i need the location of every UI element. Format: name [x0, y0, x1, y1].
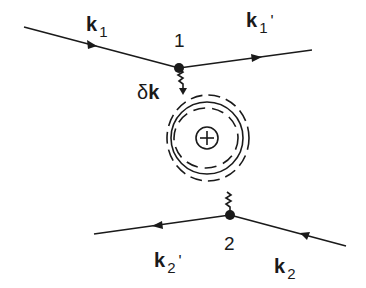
label-k1-prime: k1' [246, 10, 274, 35]
arrow-k2-icon [300, 232, 310, 240]
label-vertex-2: 2 [224, 234, 235, 253]
arrow-k1-prime-icon [251, 54, 262, 62]
label-vertex-1: 1 [174, 31, 185, 50]
arrow-dk-icon [179, 88, 187, 95]
label-delta-k: δk [137, 82, 159, 102]
label-k1: k1 [86, 14, 107, 39]
label-k2-prime: k2' [154, 250, 182, 275]
line-k2 [230, 215, 346, 246]
vertex-1 [174, 63, 184, 73]
vertex-2 [225, 210, 235, 220]
arrow-k1-icon [87, 40, 97, 49]
line-k1-prime [179, 50, 312, 68]
label-k2: k2 [274, 256, 295, 281]
